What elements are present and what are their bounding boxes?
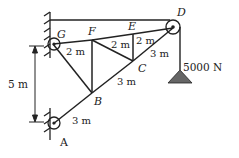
node-label-a: A [59,136,69,149]
node-label-f: F [87,25,96,38]
height-dimension [29,46,44,122]
node-label-e: E [127,20,136,33]
truss-diagram: G F E D C B A 2 m 2 m 2 m 3 m 3 m 3 m 5 … [0,0,239,158]
length-label-gf: 2 m [66,46,86,57]
load-label: 5000 N [183,61,222,73]
node-label-d: D [176,6,186,19]
node-label-c: C [138,62,147,75]
wall-support [44,12,50,58]
length-label-ed: 2 m [136,35,156,46]
length-label-ab: 3 m [72,115,92,126]
length-label-bc: 3 m [117,76,137,87]
node-label-g: G [57,28,66,41]
length-label-cd: 3 m [150,48,170,59]
height-label: 5 m [8,78,28,90]
pin-support-a [44,108,50,140]
pulley-d [166,20,180,34]
node-label-b: B [93,95,102,108]
length-label-fe: 2 m [111,39,131,50]
truss-svg: G F E D C B A 2 m 2 m 2 m 3 m 3 m 3 m 5 … [0,0,239,158]
